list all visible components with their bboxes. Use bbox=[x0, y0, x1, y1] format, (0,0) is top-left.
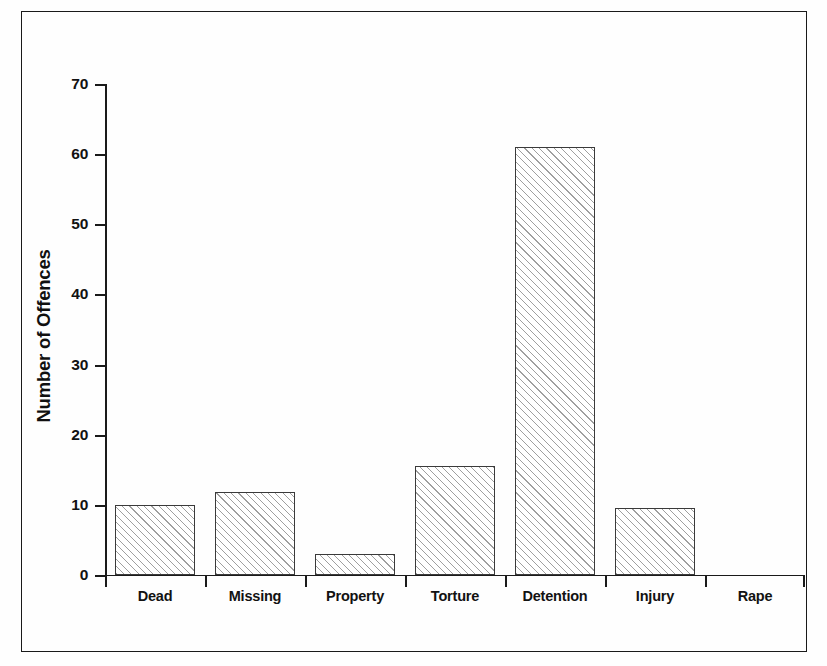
scanned-page: 70 60 50 40 30 20 10 0 bbox=[0, 0, 827, 666]
x-label-dead: Dead bbox=[105, 588, 205, 604]
bar-detention[interactable] bbox=[515, 147, 595, 575]
x-tick-5 bbox=[605, 576, 607, 587]
x-tick-7 bbox=[803, 576, 805, 587]
x-label-missing: Missing bbox=[205, 588, 305, 604]
y-axis-title-text: Number of Offences bbox=[33, 249, 55, 422]
x-tick-3 bbox=[405, 576, 407, 587]
y-axis-line bbox=[105, 84, 107, 576]
x-tick-6 bbox=[705, 576, 707, 587]
y-tick-label-0: 0 bbox=[44, 566, 88, 584]
bar-property[interactable] bbox=[315, 554, 395, 575]
x-label-detention: Detention bbox=[505, 588, 605, 604]
x-label-rape: Rape bbox=[705, 588, 805, 604]
bar-dead[interactable] bbox=[115, 505, 195, 575]
bar-chart: 70 60 50 40 30 20 10 0 bbox=[0, 0, 827, 666]
y-tick-label-10: 10 bbox=[44, 496, 88, 514]
x-tick-2 bbox=[305, 576, 307, 587]
y-axis-title: Number of Offences bbox=[30, 186, 58, 486]
bar-injury[interactable] bbox=[615, 508, 695, 575]
y-tick-label-60: 60 bbox=[44, 145, 88, 163]
x-tick-0 bbox=[105, 576, 107, 587]
bar-torture[interactable] bbox=[415, 466, 495, 575]
x-label-property: Property bbox=[305, 588, 405, 604]
x-tick-4 bbox=[505, 576, 507, 587]
bar-missing[interactable] bbox=[215, 492, 295, 575]
y-tick-label-70: 70 bbox=[44, 75, 88, 93]
x-label-torture: Torture bbox=[405, 588, 505, 604]
x-label-injury: Injury bbox=[605, 588, 705, 604]
x-tick-1 bbox=[205, 576, 207, 587]
